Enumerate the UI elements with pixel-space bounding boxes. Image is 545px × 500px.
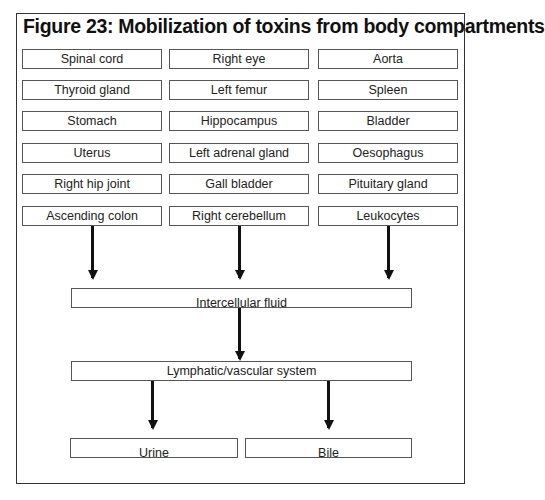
compartment-box: Spinal cord <box>22 49 162 69</box>
compartment-box: Left femur <box>169 80 309 100</box>
arrow-down-icon <box>238 308 241 359</box>
compartment-box: Ascending colon <box>22 206 162 226</box>
compartment-box: Thyroid gland <box>22 80 162 100</box>
arrow-down-icon <box>151 381 154 428</box>
figure-title: Figure 23: Mobilization of toxins from b… <box>23 15 545 38</box>
arrow-down-icon <box>238 226 241 278</box>
compartment-box: Gall bladder <box>169 174 309 194</box>
compartment-box: Right hip joint <box>22 174 162 194</box>
compartment-box: Spleen <box>318 80 458 100</box>
intercellular-fluid-box: Intercellular fluid <box>71 288 412 308</box>
compartment-box: Uterus <box>22 143 162 163</box>
arrow-down-icon <box>387 226 390 278</box>
urine-box: Urine <box>70 438 238 458</box>
compartment-box: Right cerebellum <box>169 206 309 226</box>
compartment-box: Oesophagus <box>318 143 458 163</box>
arrow-down-icon <box>91 226 94 278</box>
arrow-down-icon <box>327 381 330 428</box>
compartment-box: Right eye <box>169 49 309 69</box>
compartment-box: Pituitary gland <box>318 174 458 194</box>
bile-box: Bile <box>245 438 412 458</box>
compartment-box: Stomach <box>22 111 162 131</box>
lymphatic-vascular-box: Lymphatic/vascular system <box>71 361 412 381</box>
compartment-box: Aorta <box>318 49 458 69</box>
compartment-box: Leukocytes <box>318 206 458 226</box>
compartment-box: Left adrenal gland <box>169 143 309 163</box>
compartment-box: Hippocampus <box>169 111 309 131</box>
compartment-box: Bladder <box>318 111 458 131</box>
